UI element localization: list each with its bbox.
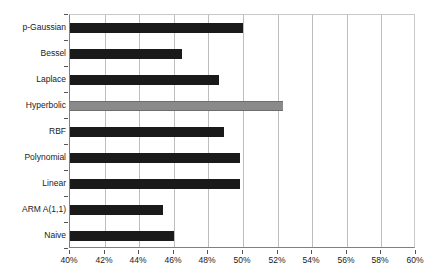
bar-linear — [70, 179, 240, 189]
x-axis-tick — [311, 250, 312, 254]
bar-p-gaussian — [70, 23, 243, 33]
y-axis-category-labels: p-GaussianBesselLaplaceHyperbolicRBFPoly… — [0, 14, 66, 248]
gridline — [278, 15, 279, 247]
gridline — [243, 15, 244, 247]
x-axis-tick-label: 54% — [291, 255, 331, 265]
y-axis-tick — [64, 118, 68, 119]
x-axis-tick — [415, 250, 416, 254]
x-axis-tick — [346, 250, 347, 254]
plot-area — [69, 14, 415, 248]
category-label: Hyperbolic — [2, 100, 66, 110]
bar-laplace — [70, 75, 219, 85]
y-axis-tick — [64, 222, 68, 223]
category-label: Naive — [2, 230, 66, 240]
x-axis-tick-label: 58% — [360, 255, 400, 265]
bar-hyperbolic — [70, 101, 283, 111]
gridline — [312, 15, 313, 247]
x-axis-tick-label: 44% — [118, 255, 158, 265]
y-axis-tick — [64, 248, 68, 249]
bar-naive — [70, 231, 174, 241]
category-label: Linear — [2, 178, 66, 188]
category-label: ARM A(1,1) — [2, 204, 66, 214]
y-axis-tick — [64, 144, 68, 145]
y-axis-tick — [64, 66, 68, 67]
y-axis-tick — [64, 40, 68, 41]
x-axis-tick — [69, 250, 70, 254]
x-axis-tick — [380, 250, 381, 254]
x-axis-tick-label: 60% — [395, 255, 434, 265]
x-axis-tick — [207, 250, 208, 254]
category-label: RBF — [2, 126, 66, 136]
x-axis-tick-label: 48% — [187, 255, 227, 265]
x-axis-tick — [173, 250, 174, 254]
y-axis-tick — [64, 170, 68, 171]
category-label: Bessel — [2, 48, 66, 58]
x-axis-tick-label: 50% — [222, 255, 262, 265]
bar-rbf — [70, 127, 224, 137]
x-axis-tick-label: 40% — [49, 255, 89, 265]
category-label: p-Gaussian — [2, 22, 66, 32]
x-axis-tick-labels: 40%42%44%46%48%50%52%54%56%58%60% — [69, 250, 416, 270]
y-axis-tick — [64, 92, 68, 93]
bar-bessel — [70, 49, 182, 59]
bar-arm-a-1-1 — [70, 205, 163, 215]
bar-polynomial — [70, 153, 240, 163]
y-axis-tick — [64, 196, 68, 197]
y-axis-tick — [64, 14, 68, 15]
x-axis-tick — [104, 250, 105, 254]
category-label: Polynomial — [2, 152, 66, 162]
category-label: Laplace — [2, 74, 66, 84]
x-axis-tick — [277, 250, 278, 254]
x-axis-tick — [138, 250, 139, 254]
bar-chart: p-GaussianBesselLaplaceHyperbolicRBFPoly… — [0, 0, 434, 279]
x-axis-tick — [242, 250, 243, 254]
gridline — [381, 15, 382, 247]
gridline — [347, 15, 348, 247]
